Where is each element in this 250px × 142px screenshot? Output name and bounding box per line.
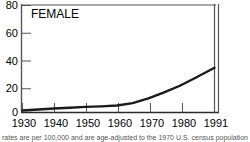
x-tick-label-1950: 1950	[76, 117, 100, 129]
y-tick-labels: 80 60 40 20 0	[6, 0, 18, 118]
x-tick-label-1940: 1940	[44, 117, 68, 129]
y-axis-ticks	[22, 6, 31, 89]
y-tick-label-20: 20	[6, 82, 18, 94]
line-chart: 80 60 40 20 0 1930 1940 1950 1960 1970 1…	[0, 0, 250, 142]
x-tick-label-1970: 1970	[140, 117, 164, 129]
x-tick-labels: 1930 1940 1950 1960 1970 1980 1991	[12, 117, 228, 129]
chart-title: FEMALE	[31, 7, 79, 21]
chart-figure: 80 60 40 20 0 1930 1940 1950 1960 1970 1…	[0, 0, 250, 142]
x-tick-label-1960: 1960	[108, 117, 132, 129]
chart-footnote: rates are per 100,000 and are age-adjust…	[2, 134, 250, 142]
x-tick-label-1980: 1980	[172, 117, 196, 129]
y-tick-label-60: 60	[6, 27, 18, 39]
x-tick-label-1991: 1991	[204, 117, 228, 129]
y-tick-label-40: 40	[6, 55, 18, 67]
x-tick-label-1930: 1930	[12, 117, 36, 129]
y-tick-label-80: 80	[6, 0, 18, 11]
